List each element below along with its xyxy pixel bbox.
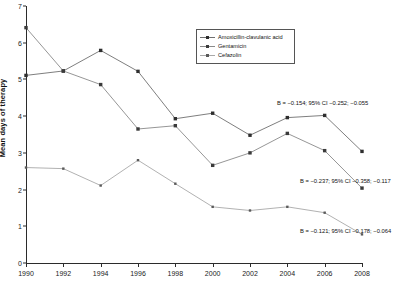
- annotation-amoxicillin: B = −0.154; 95% CI −0.252; −0.055: [277, 100, 368, 107]
- data-point: [174, 183, 176, 185]
- annotation-cefazolin: B = −0.121; 95% CI −0.178; −0.064: [300, 228, 391, 235]
- legend-marker-icon: [200, 43, 215, 50]
- data-point: [323, 149, 326, 152]
- data-point: [248, 151, 251, 154]
- data-point: [137, 159, 139, 161]
- data-point: [248, 134, 251, 137]
- series-line: [26, 28, 362, 188]
- data-point: [286, 132, 289, 135]
- data-point: [99, 83, 102, 86]
- legend-item-label: Gentamicin: [218, 43, 246, 49]
- legend-marker-icon: [200, 52, 215, 59]
- data-point: [25, 166, 27, 168]
- data-point: [136, 70, 139, 73]
- legend-marker-icon: [200, 34, 215, 41]
- series-2: [24, 26, 363, 190]
- data-point: [99, 49, 102, 52]
- data-point: [360, 186, 363, 189]
- data-point: [24, 26, 27, 29]
- data-point: [360, 150, 363, 153]
- data-point: [62, 69, 65, 72]
- data-point: [24, 74, 27, 77]
- legend-item-label: Cefazolin: [218, 52, 241, 58]
- data-point: [323, 212, 325, 214]
- data-point: [136, 127, 139, 130]
- series-line: [26, 160, 362, 234]
- legend-item-3[interactable]: Cefazolin: [200, 51, 291, 59]
- data-point: [174, 117, 177, 120]
- legend-item-2[interactable]: Gentamicin: [200, 42, 291, 50]
- data-point: [174, 124, 177, 127]
- data-point: [62, 167, 64, 169]
- data-point: [286, 206, 288, 208]
- data-point: [211, 206, 213, 208]
- annotation-gentamicin: B = −0.237; 95% CI −0.358; −0.117: [300, 178, 391, 185]
- data-point: [323, 114, 326, 117]
- data-point: [249, 209, 251, 211]
- data-point: [211, 112, 214, 115]
- legend: Amoxicillin-clavulanic acidGentamicinCef…: [196, 29, 295, 64]
- data-point: [286, 116, 289, 119]
- data-point: [211, 164, 214, 167]
- data-point: [99, 184, 101, 186]
- chart-container: Mean days of therapy 76543210 1990199219…: [0, 0, 414, 286]
- legend-item-label: Amoxicillin-clavulanic acid: [218, 34, 283, 40]
- series-3: [25, 159, 363, 236]
- legend-item-1[interactable]: Amoxicillin-clavulanic acid: [200, 33, 291, 41]
